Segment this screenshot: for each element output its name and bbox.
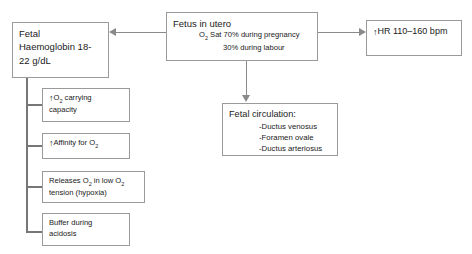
node-fetus-in-utero: Fetus in utero O2 Sat 70% during pregnan… [166, 12, 318, 61]
node-affinity-for-o2: ↑Affinity for O2 [42, 133, 130, 159]
fetal-circulation-item-0: -Ductus venosus [229, 121, 331, 132]
fetus-in-utero-o2-sat: O2 Sat 70% during pregnancy [173, 30, 311, 42]
connector-arm-affinity-o2 [26, 145, 43, 147]
fetus-in-utero-title: Fetus in utero [173, 17, 311, 30]
releases-o2-line1: Releases O2 in low O2 [49, 176, 138, 188]
increase-arrow-icon: ↑ [49, 139, 54, 148]
increase-arrow-icon: ↑ [49, 94, 54, 103]
node-fetal-haemoglobin: Fetal Haemoglobin 18- 22 g/dL [12, 22, 109, 78]
buffer-acidosis-line2: acidosis [49, 229, 123, 240]
increase-arrow-icon: ↑ [373, 28, 378, 37]
connector-haemoglobin-stem [26, 78, 28, 232]
connector-arm-o2-carrying [26, 104, 43, 106]
node-heart-rate: ↑HR 110–160 bpm [366, 20, 462, 56]
connector-arm-releases-o2 [26, 186, 43, 188]
node-fetal-circulation: Fetal circulation: -Ductus venosus -Fora… [222, 103, 338, 156]
o2-carrying-line2: capacity [49, 105, 123, 116]
arrowhead-down-circulation [242, 95, 250, 102]
fetus-in-utero-labour: 30% during labour [173, 43, 311, 54]
affinity-o2-line1: ↑Affinity for O2 [49, 138, 123, 150]
o2-carrying-line1: ↑O2 carrying [49, 93, 123, 105]
fetal-circulation-item-2: -Ductus arteriosus [229, 143, 331, 154]
connector-utero-to-circulation [246, 61, 247, 96]
fetal-haemoglobin-line1: Fetal [19, 27, 102, 40]
diagram-canvas: Fetal Haemoglobin 18- 22 g/dL Fetus in u… [0, 0, 472, 254]
heart-rate-text: ↑HR 110–160 bpm [373, 25, 455, 38]
connector-utero-to-haemoglobin [116, 32, 166, 33]
connector-arm-buffer-acidosis [26, 231, 43, 233]
fetal-haemoglobin-line2: Haemoglobin 18- [19, 40, 102, 53]
connector-utero-to-heart-rate [318, 32, 359, 33]
arrowhead-left-haemoglobin [109, 28, 116, 36]
node-releases-o2: Releases O2 in low O2 tension (hypoxia) [42, 171, 145, 203]
releases-o2-line2: tension (hypoxia) [49, 188, 138, 199]
arrowhead-right-heart-rate [359, 28, 366, 36]
node-o2-carrying-capacity: ↑O2 carrying capacity [42, 88, 130, 122]
node-buffer-acidosis: Buffer during acidosis [42, 213, 130, 246]
fetal-haemoglobin-line3: 22 g/dL [19, 54, 102, 67]
buffer-acidosis-line1: Buffer during [49, 218, 123, 229]
fetal-circulation-item-1: -Foramen ovale [229, 132, 331, 143]
fetal-circulation-title: Fetal circulation: [229, 108, 331, 121]
